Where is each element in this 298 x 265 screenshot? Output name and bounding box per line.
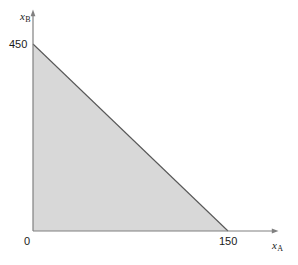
y-axis-tick-450: 450: [9, 39, 27, 50]
x-axis-tick-150: 150: [219, 236, 237, 247]
y-axis-label-subscript: B: [25, 15, 30, 24]
x-axis-label: xA: [272, 240, 283, 251]
origin-tick-0: 0: [24, 236, 30, 247]
y-axis-label: xB: [20, 11, 30, 22]
x-axis-label-subscript: A: [277, 244, 283, 253]
x-axis-arrow-icon: [272, 229, 279, 234]
y-axis-arrow-icon: [31, 10, 36, 17]
plot-canvas: [0, 0, 298, 265]
chart-figure: xB xA 450 150 0: [0, 0, 298, 265]
